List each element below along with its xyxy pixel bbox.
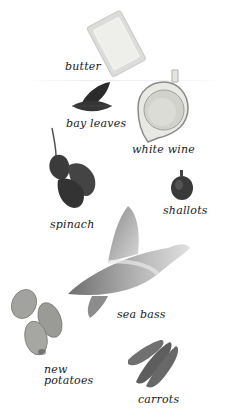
sea-bass-label: sea bass [117,309,166,320]
carrots-label: carrots [138,394,179,405]
sea-bass-image [68,204,193,319]
white-wine-label: white wine [132,144,195,155]
new-potatoes-image [8,290,68,360]
butter-label: butter [65,61,101,72]
bay-leaves-image [68,80,116,116]
white-wine-image [132,66,192,146]
shallot-image [168,168,196,202]
carrots-image [122,334,182,390]
new-potatoes-label-line2: potatoes [44,375,93,386]
background-divider [25,80,225,81]
spinach-image [46,126,106,216]
